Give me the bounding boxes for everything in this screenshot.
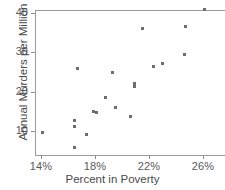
data-point: [95, 111, 98, 114]
scatter-plot-figure: 14%18%22%26% 10203040 Percent in Poverty…: [0, 0, 225, 190]
plot-area: [35, 10, 225, 155]
data-point: [73, 146, 76, 149]
data-point: [184, 25, 187, 28]
data-point: [111, 71, 114, 74]
data-point: [133, 82, 136, 85]
y-tick-mark: [31, 92, 35, 93]
data-point: [161, 62, 164, 65]
data-point: [129, 115, 132, 118]
data-point: [141, 27, 144, 30]
data-point: [41, 131, 44, 134]
data-point: [183, 53, 186, 56]
x-tick-label: 22%: [129, 160, 169, 172]
x-tick-mark: [95, 155, 96, 159]
x-axis-title: Percent in Poverty: [0, 173, 225, 185]
y-tick-mark: [31, 131, 35, 132]
x-tick-label: 26%: [183, 160, 223, 172]
data-point: [152, 65, 155, 68]
data-point: [73, 125, 76, 128]
data-point: [76, 67, 79, 70]
data-point: [133, 85, 136, 88]
data-point: [203, 8, 206, 11]
x-tick-mark: [203, 155, 204, 159]
data-point: [85, 133, 88, 136]
x-tick-mark: [149, 155, 150, 159]
data-point: [104, 96, 107, 99]
x-tick-label: 18%: [75, 160, 115, 172]
x-tick-mark: [41, 155, 42, 159]
data-point: [114, 106, 117, 109]
y-tick-mark: [31, 13, 35, 14]
x-axis-line: [35, 155, 225, 156]
data-point: [73, 119, 76, 122]
y-axis-title: Annual Murders per Million: [17, 0, 29, 147]
x-tick-label: 14%: [21, 160, 61, 172]
y-tick-mark: [31, 52, 35, 53]
